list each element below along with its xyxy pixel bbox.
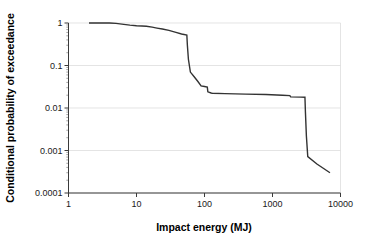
y-tick-label: 0.1 (50, 61, 63, 71)
y-tick-label: 1 (57, 18, 62, 28)
y-axis-title: Conditional probability of exceedance (4, 13, 16, 203)
x-axis-major-ticks (69, 193, 341, 197)
y-gridlines (69, 23, 341, 193)
y-axis-tick-labels: 0.00010.0010.010.11 (35, 18, 63, 198)
x-tick-label: 1000 (262, 199, 282, 209)
y-tick-label: 0.01 (45, 103, 63, 113)
chart-figure: 0.00010.0010.010.11 110100100010000 Impa… (0, 0, 366, 237)
y-tick-label: 0.001 (40, 146, 63, 156)
x-axis-title: Impact energy (MJ) (156, 221, 252, 233)
x-tick-label: 100 (197, 199, 212, 209)
exceedance-probability-chart: 0.00010.0010.010.11 110100100010000 Impa… (0, 0, 366, 237)
y-tick-label: 0.0001 (35, 188, 63, 198)
x-tick-label: 10000 (328, 199, 353, 209)
x-axis-tick-labels: 110100100010000 (66, 199, 353, 209)
x-tick-label: 1 (66, 199, 71, 209)
x-tick-label: 10 (131, 199, 141, 209)
